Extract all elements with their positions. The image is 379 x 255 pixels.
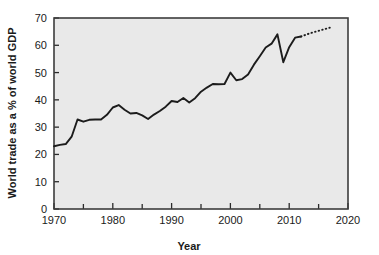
x-tick-label: 2000 [218,214,242,226]
y-tick-label: 30 [35,121,47,133]
world-trade-line-chart: 010203040506070 197019801990200020102020… [0,0,379,255]
x-axis-tick-labels: 197019801990200020102020 [42,214,360,226]
x-axis-title: Year [177,240,201,252]
y-tick-label: 20 [35,148,47,160]
y-axis-tick-labels: 010203040506070 [35,12,47,215]
plot-background [54,18,348,209]
chart-figure: 010203040506070 197019801990200020102020… [0,0,379,255]
y-tick-label: 70 [35,12,47,24]
y-tick-label: 50 [35,67,47,79]
x-tick-label: 1990 [159,214,183,226]
x-tick-label: 2020 [336,214,360,226]
y-tick-label: 10 [35,176,47,188]
y-tick-label: 60 [35,39,47,51]
x-tick-label: 2010 [277,214,301,226]
x-tick-label: 1970 [42,214,66,226]
x-tick-label: 1980 [101,214,125,226]
y-tick-label: 40 [35,94,47,106]
y-axis-title: World trade as a % of world GDP [6,28,18,199]
